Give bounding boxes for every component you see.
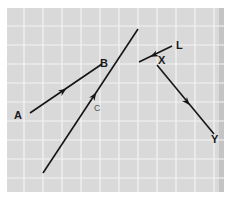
edge-shadow [219,8,224,192]
label-c: C [94,103,101,113]
vector-diagram: A B C L X Y [0,0,230,202]
label-l: L [176,39,183,51]
label-y: Y [211,133,219,145]
grid-background [7,8,224,192]
graph-paper [7,8,224,192]
label-b: B [100,57,108,69]
label-x: X [158,54,166,66]
label-a: A [14,109,22,121]
